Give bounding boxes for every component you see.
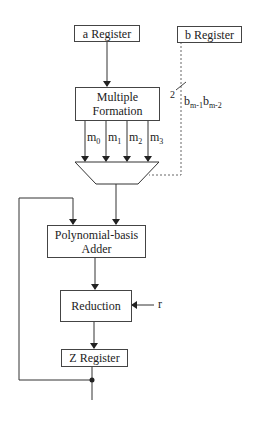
reduction-input-r-label: r (158, 297, 162, 312)
z-register-block: Z Register (61, 349, 128, 367)
b-select-label: bm-1bm-2 (184, 94, 222, 110)
signal-m0: m0 (87, 130, 100, 146)
adder-label-2: Adder (82, 242, 112, 256)
polynomial-basis-adder-block: Polynomial-basis Adder (47, 225, 146, 258)
multiple-formation-label-2: Formation (93, 104, 143, 118)
a-register-label: a Register (83, 27, 131, 41)
b-register-label: b Register (185, 28, 234, 42)
multiplexer (75, 162, 159, 184)
b-register-block: b Register (177, 26, 242, 43)
bus-width-label: 2 (170, 89, 175, 100)
signal-m3: m3 (150, 130, 163, 146)
multiple-formation-label-1: Multiple (97, 90, 138, 104)
signal-m2: m2 (129, 130, 142, 146)
reduction-label: Reduction (71, 299, 120, 313)
signal-m1: m1 (108, 130, 121, 146)
z-register-label: Z Register (69, 351, 119, 365)
a-register-block: a Register (74, 25, 140, 42)
adder-label-1: Polynomial-basis (55, 228, 138, 242)
reduction-block: Reduction (60, 290, 132, 322)
junction-dot (90, 378, 95, 383)
multiple-formation-block: Multiple Formation (75, 87, 160, 121)
